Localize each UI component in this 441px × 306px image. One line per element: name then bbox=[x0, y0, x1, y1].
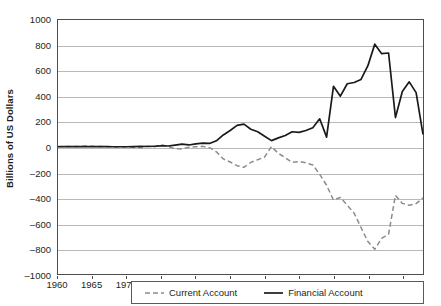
y-axis-tick-label: 0 bbox=[46, 142, 51, 153]
y-axis-tick-label: 600 bbox=[35, 65, 51, 76]
x-axis-tick-label: 1965 bbox=[81, 279, 102, 290]
legend-label-financial-account: Financial Account bbox=[288, 287, 362, 298]
chart-figure: Billions of US Dollars 10008006004002000… bbox=[0, 0, 441, 306]
legend-item-financial-account: Financial Account bbox=[264, 287, 362, 298]
x-axis-tick-label: 1960 bbox=[46, 279, 67, 290]
series-line-current-account bbox=[58, 145, 423, 250]
y-axis-tick-label: 800 bbox=[35, 39, 51, 50]
y-axis-tick-label: 400 bbox=[35, 90, 51, 101]
legend-label-current-account: Current Account bbox=[169, 287, 237, 298]
y-axis-tick-label: –800 bbox=[30, 244, 51, 255]
y-axis-title-text: Billions of US Dollars bbox=[4, 89, 15, 188]
y-axis-tick-label: 200 bbox=[35, 116, 51, 127]
chart-legend: Current Account Financial Account bbox=[131, 281, 424, 304]
y-axis-tick-labels: 10008006004002000–200–400–600–800–1000 bbox=[18, 13, 54, 281]
chart-lines bbox=[58, 20, 423, 274]
y-axis-tick-label: –200 bbox=[30, 167, 51, 178]
series-line-financial-account bbox=[58, 44, 423, 147]
y-axis-tick-label: –600 bbox=[30, 218, 51, 229]
solid-line-icon bbox=[264, 289, 283, 297]
y-axis-title: Billions of US Dollars bbox=[0, 0, 18, 276]
plot-inner bbox=[58, 20, 423, 274]
legend-item-current-account: Current Account bbox=[145, 287, 237, 298]
y-axis-tick-label: 1000 bbox=[30, 14, 51, 25]
plot-area bbox=[57, 19, 424, 275]
dashed-line-icon bbox=[145, 289, 164, 297]
y-axis-tick-label: –400 bbox=[30, 193, 51, 204]
